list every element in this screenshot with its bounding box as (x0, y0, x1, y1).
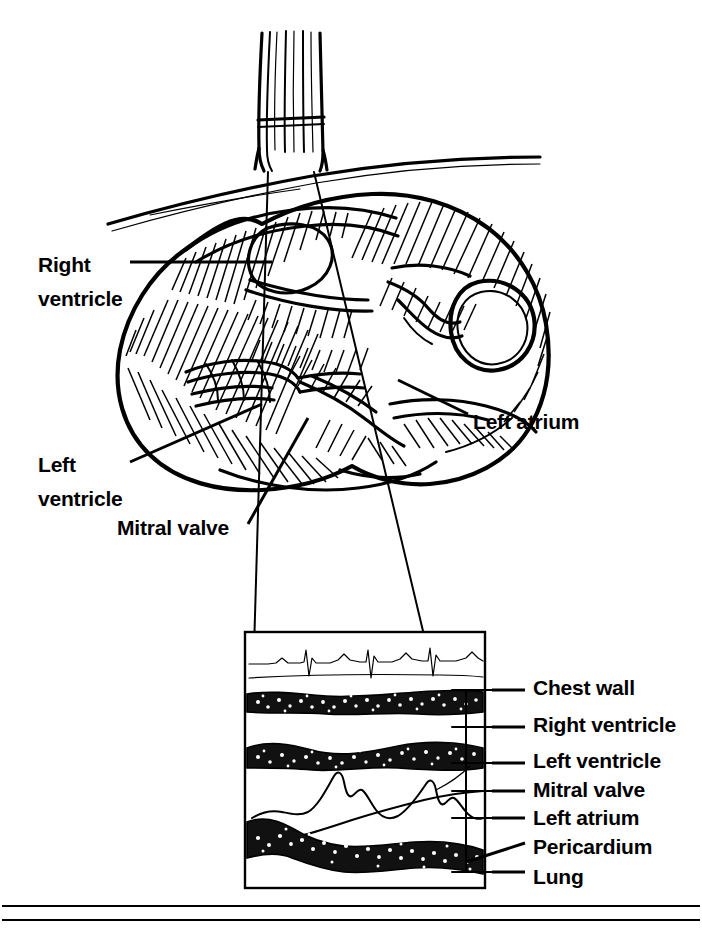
label-left-ventricle-line1: Left (38, 448, 123, 482)
leader-left-ventricle (130, 404, 262, 462)
label-trace-left-ventricle: Left ventricle (533, 750, 661, 771)
label-right-ventricle-line1: Right (38, 248, 123, 282)
label-trace-pericardium: Pericardium (533, 836, 652, 857)
m-mode-echo-panel (245, 632, 492, 888)
label-trace-lung: Lung (533, 866, 584, 887)
label-left-atrium: Left atrium (473, 411, 579, 432)
myocardium-hatching-fill (286, 356, 372, 460)
label-trace-mitral-valve: Mitral valve (533, 779, 645, 800)
echocardiography-figure: Right ventricle Left ventricle Mitral va… (0, 0, 702, 930)
label-right-ventricle-line2: ventricle (38, 282, 123, 316)
transducer-probe (255, 31, 327, 171)
leader-left-atrium (398, 380, 468, 414)
label-trace-chest-wall: Chest wall (533, 677, 635, 698)
heart-anatomy (118, 194, 550, 490)
leader-mitral-valve (248, 418, 308, 524)
label-mitral-valve: Mitral valve (117, 517, 229, 538)
label-right-ventricle: Right ventricle (38, 248, 123, 316)
label-trace-right-ventricle: Right ventricle (533, 714, 676, 735)
label-trace-left-atrium: Left atrium (533, 807, 639, 828)
label-left-ventricle-line2: ventricle (38, 482, 123, 516)
page-divider-rules (2, 906, 700, 920)
label-left-ventricle: Left ventricle (38, 448, 123, 516)
